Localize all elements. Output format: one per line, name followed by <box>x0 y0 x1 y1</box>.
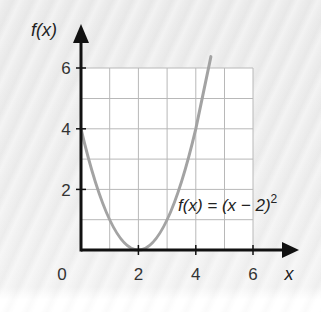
y-axis-arrow-icon <box>73 24 89 43</box>
y-tick-label-6: 6 <box>61 59 70 78</box>
y-tick-label-2: 2 <box>61 181 70 200</box>
chart-svg: 0 2 4 6 2 4 6 f(x) x f(x) = (x − 2)2 <box>0 0 321 312</box>
equation-main: f(x) = (x − 2) <box>178 196 271 215</box>
equation-label: f(x) = (x − 2)2 <box>178 192 278 215</box>
equation-exponent: 2 <box>271 192 278 206</box>
x-tick-label-6: 6 <box>248 265 257 284</box>
origin-label: 0 <box>57 265 66 284</box>
x-axis-arrow-icon <box>282 242 299 258</box>
graph-figure: 0 2 4 6 2 4 6 f(x) x f(x) = (x − 2)2 <box>0 0 321 312</box>
x-tick-label-4: 4 <box>191 265 200 284</box>
x-axis-title: x <box>284 264 295 284</box>
x-tick-label-2: 2 <box>134 265 143 284</box>
y-tick-label-4: 4 <box>61 120 70 139</box>
y-axis-title: f(x) <box>31 20 57 40</box>
